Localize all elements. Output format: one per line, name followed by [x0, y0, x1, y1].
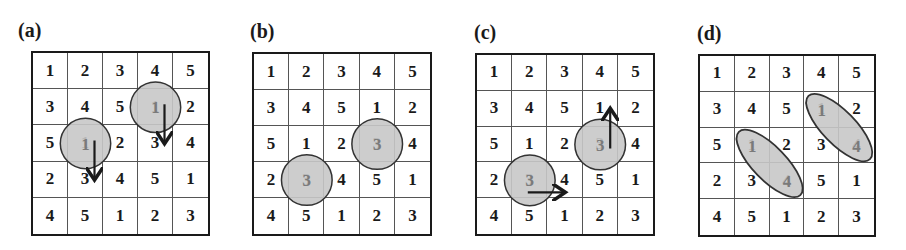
grid-cell: 5 — [477, 127, 512, 163]
grid-cell: 5 — [547, 91, 582, 127]
grid-cell: 1 — [547, 198, 582, 234]
grid-cell: 5 — [289, 198, 324, 234]
grid-cell: 2 — [770, 128, 805, 164]
grid-cell: 2 — [512, 55, 547, 91]
grid-cell: 5 — [138, 162, 173, 198]
grid-cell: 5 — [583, 162, 618, 198]
grid-cell: 4 — [103, 162, 138, 198]
grid-cell: 3 — [839, 199, 874, 235]
grid-cell: 4 — [512, 91, 547, 127]
grid-cell: 3 — [103, 53, 138, 89]
grid-cell: 5 — [512, 198, 547, 234]
grid-cell: 3 — [618, 198, 653, 234]
grid-cell: 1 — [735, 128, 770, 164]
grid-cell: 2 — [33, 162, 68, 198]
grid-cell: 3 — [324, 54, 359, 90]
grid-cell: 3 — [33, 89, 68, 125]
grid-cell: 1 — [360, 90, 395, 126]
grid-cell: 4 — [324, 162, 359, 198]
grid-cell: 3 — [770, 56, 805, 92]
grid-cell: 3 — [68, 162, 103, 198]
grid-cell: 4 — [360, 54, 395, 90]
grid-cell: 5 — [618, 55, 653, 91]
grid-cell: 1 — [770, 199, 805, 235]
latin-square-grid: 12345345125123423451451231414 — [698, 54, 876, 237]
grid-cell: 2 — [839, 92, 874, 128]
grid-cell: 2 — [289, 54, 324, 90]
grid-cell: 5 — [395, 54, 430, 90]
panel-label: (b) — [250, 21, 274, 41]
grid-cell: 5 — [700, 128, 735, 164]
panel-label: (d) — [697, 23, 721, 43]
grid-cell: 2 — [324, 126, 359, 162]
panel-label: (c) — [474, 22, 496, 42]
grid-cell: 1 — [804, 92, 839, 128]
grid-cell: 3 — [173, 198, 208, 234]
grid-cell: 2 — [254, 162, 289, 198]
grid-cell: 1 — [289, 126, 324, 162]
grid-cell: 5 — [68, 198, 103, 234]
grid-cell: 3 — [700, 92, 735, 128]
latin-square-grid: 123453451251234234514512311 — [31, 51, 210, 236]
grid-cell: 4 — [735, 92, 770, 128]
grid-cell: 4 — [700, 199, 735, 235]
grid-cell: 1 — [618, 162, 653, 198]
grid-cell: 1 — [138, 89, 173, 125]
grid-cell: 1 — [512, 127, 547, 163]
grid-cell: 5 — [324, 90, 359, 126]
grid-cell: 3 — [395, 198, 430, 234]
grid-cell: 1 — [173, 162, 208, 198]
grid-cell: 3 — [289, 162, 324, 198]
grid-cell: 2 — [360, 198, 395, 234]
grid-cell: 5 — [735, 199, 770, 235]
grid-cell: 2 — [583, 198, 618, 234]
grid-cell: 5 — [173, 53, 208, 89]
grid-cell: 4 — [138, 53, 173, 89]
grid-cell: 3 — [477, 91, 512, 127]
grid-cell: 3 — [138, 125, 173, 161]
grid-cell: 4 — [477, 198, 512, 234]
grid-cell: 4 — [804, 56, 839, 92]
grid-cell: 5 — [360, 162, 395, 198]
grid-cell: 3 — [735, 163, 770, 199]
grid-cell: 4 — [618, 127, 653, 163]
grid-cell: 1 — [324, 198, 359, 234]
grid-cell: 1 — [700, 56, 735, 92]
grid-cell: 4 — [289, 90, 324, 126]
grid-cell: 2 — [477, 162, 512, 198]
grid-cell: 1 — [33, 53, 68, 89]
grid-cell: 1 — [395, 162, 430, 198]
grid-cell: 4 — [547, 162, 582, 198]
grid-cell: 3 — [360, 126, 395, 162]
grid-cell: 2 — [700, 163, 735, 199]
grid-cell: 5 — [254, 126, 289, 162]
grid-cell: 3 — [804, 128, 839, 164]
grid-cell: 4 — [33, 198, 68, 234]
grid-cell: 1 — [583, 91, 618, 127]
grid-cell: 4 — [173, 125, 208, 161]
grid-cell: 2 — [68, 53, 103, 89]
panel-label: (a) — [18, 20, 41, 40]
grid-cell: 1 — [103, 198, 138, 234]
grid-cell: 2 — [804, 199, 839, 235]
grid-cell: 5 — [770, 92, 805, 128]
grid-cell: 2 — [103, 125, 138, 161]
latin-square-grid: 123453451251234234514512333 — [475, 53, 655, 236]
grid-cell: 4 — [254, 198, 289, 234]
grid-cell: 4 — [839, 128, 874, 164]
grid-cell: 2 — [735, 56, 770, 92]
grid-cell: 4 — [770, 163, 805, 199]
grid-cell: 2 — [138, 198, 173, 234]
grid-cell: 2 — [173, 89, 208, 125]
grid-cell: 3 — [547, 55, 582, 91]
grid-cell: 4 — [395, 126, 430, 162]
grid-cell: 4 — [583, 55, 618, 91]
grid-cell: 1 — [254, 54, 289, 90]
grid-cell: 3 — [254, 90, 289, 126]
grid-cell: 4 — [68, 89, 103, 125]
grid-cell: 1 — [477, 55, 512, 91]
grid-cell: 2 — [547, 127, 582, 163]
grid-cell: 1 — [839, 163, 874, 199]
grid-cell: 5 — [839, 56, 874, 92]
latin-square-grid: 123453451251234234514512333 — [252, 52, 432, 236]
